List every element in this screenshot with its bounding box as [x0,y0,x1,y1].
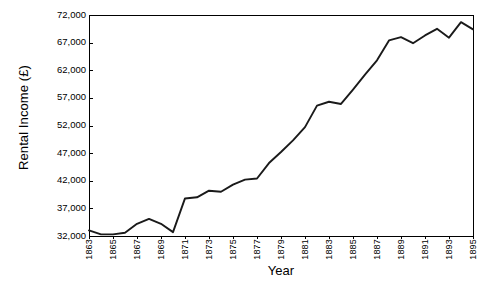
x-tick-label: 1895 [468,239,478,260]
x-tick-label: 1863 [84,239,94,260]
axis-frame [89,15,473,236]
chart-figure: Rental Income (£) Year 72,00067,00062,00… [0,0,492,285]
y-tick-label: 32,000 [26,230,86,241]
x-tick-label: 1875 [228,239,238,260]
x-tick-label: 1879 [276,239,286,260]
x-tick-label: 1871 [180,239,190,260]
x-tick-label: 1893 [444,239,454,260]
data-line-group [89,22,473,234]
y-tick-label: 52,000 [26,119,86,130]
x-tick-label: 1873 [204,239,214,260]
x-tick-label: 1869 [156,239,166,260]
x-tick-label: 1867 [132,239,142,260]
data-series-line [89,22,473,234]
x-tick-label: 1885 [348,239,358,260]
y-tick-label: 37,000 [26,202,86,213]
x-tick-label: 1881 [300,239,310,260]
y-tick-label: 57,000 [26,91,86,102]
axis-ticks [89,16,474,240]
y-tick-label: 67,000 [26,36,86,47]
y-tick-label: 42,000 [26,174,86,185]
x-tick-label: 1891 [420,239,430,260]
y-tick-label: 62,000 [26,64,86,75]
x-tick-label: 1889 [396,239,406,260]
y-tick-label: 47,000 [26,147,86,158]
x-tick-label: 1883 [324,239,334,260]
x-tick-label: 1877 [252,239,262,260]
x-tick-label: 1865 [108,239,118,260]
y-tick-label: 72,000 [26,9,86,20]
x-tick-label: 1887 [372,239,382,260]
